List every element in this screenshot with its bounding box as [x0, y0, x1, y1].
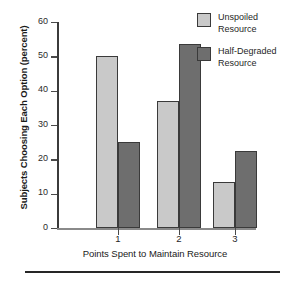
legend-label-line1: Half-Degraded	[218, 46, 277, 58]
legend-label: UnspoiledResource	[218, 12, 258, 35]
bottom-rule	[25, 271, 280, 273]
legend-label-line1: Unspoiled	[218, 12, 258, 24]
legend-label-line2: Resource	[218, 24, 258, 36]
x-axis-tick-label: 2	[159, 233, 199, 244]
y-axis-tick-label: 10	[38, 187, 48, 197]
y-axis-tick: 60	[51, 22, 57, 23]
y-axis-tick-label: 40	[38, 84, 48, 94]
y-axis-tick-label: 20	[38, 153, 48, 163]
y-axis-tick: 10	[51, 194, 57, 195]
legend-label-line2: Resource	[218, 58, 277, 70]
y-axis-title: Subjects Choosing Each Option (percent)	[18, 8, 29, 228]
legend-label: Half-DegradedResource	[218, 46, 277, 69]
y-axis-tick-label: 60	[38, 16, 48, 26]
bar-1-series-2	[118, 142, 140, 228]
legend-swatch	[197, 47, 211, 61]
bar-chart-figure: Subjects Choosing Each Option (percent) …	[0, 0, 303, 282]
legend-swatch	[197, 13, 211, 27]
y-axis-tick-label: 50	[38, 50, 48, 60]
bar-2-series-1	[157, 101, 179, 228]
y-axis-line	[57, 22, 59, 228]
bar-1-series-1	[96, 56, 118, 228]
legend-entry: Half-DegradedResource	[197, 46, 303, 69]
chart-legend: UnspoiledResourceHalf-DegradedResource	[197, 12, 303, 80]
x-axis-tick-label: 3	[215, 233, 255, 244]
y-axis-tick: 0	[51, 228, 57, 229]
bar-3-series-2	[235, 151, 257, 228]
y-axis-tick: 20	[51, 159, 57, 160]
x-axis-line	[57, 228, 256, 230]
y-axis-tick-label: 0	[43, 222, 48, 232]
y-axis-tick: 40	[51, 91, 57, 92]
x-axis-title: Points Spent to Maintain Resource	[30, 248, 280, 259]
bar-3-series-1	[213, 182, 235, 228]
y-axis-tick-label: 30	[38, 119, 48, 129]
x-axis-tick-label: 1	[98, 233, 138, 244]
y-axis-tick: 50	[51, 56, 57, 57]
legend-entry: UnspoiledResource	[197, 12, 303, 35]
y-axis-tick: 30	[51, 125, 57, 126]
